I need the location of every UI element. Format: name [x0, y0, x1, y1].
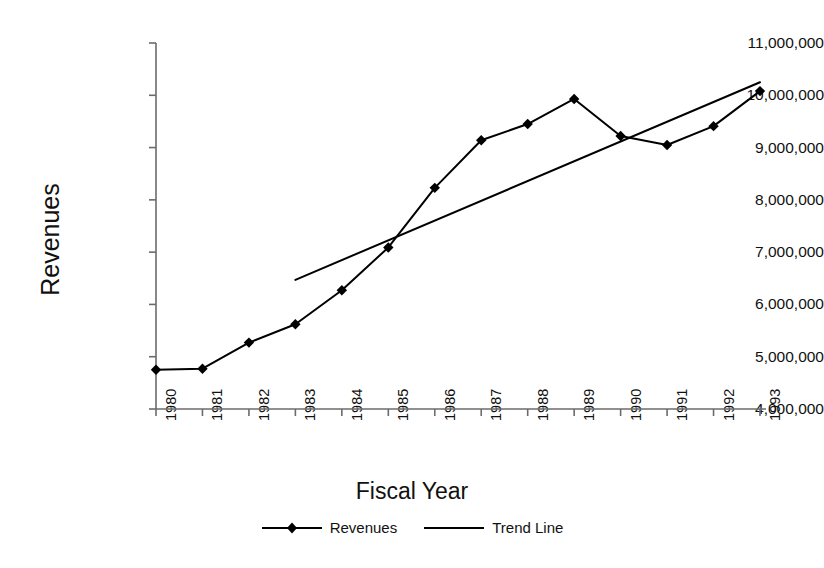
revenues-line-chart: Revenues 4,000,0005,000,0006,000,0007,00… — [0, 0, 824, 568]
series-line-revenues — [156, 91, 760, 370]
data-point-marker-revenues — [151, 365, 161, 375]
legend-item-trend-line: Trend Line — [423, 519, 563, 536]
legend-label-revenues: Revenues — [330, 519, 398, 536]
series-line-trend-line — [295, 82, 760, 280]
data-point-marker-revenues — [662, 140, 672, 150]
x-axis-title: Fiscal Year — [0, 478, 824, 505]
data-point-marker-revenues — [522, 119, 532, 129]
chart-legend: Revenues Trend Line — [0, 519, 824, 536]
legend-plain-line-icon — [423, 521, 485, 535]
data-point-marker-revenues — [244, 337, 254, 347]
legend-label-trend-line: Trend Line — [492, 519, 563, 536]
legend-item-revenues: Revenues — [261, 519, 398, 536]
data-point-marker-revenues — [197, 364, 207, 374]
legend-line-with-diamond-marker-icon — [261, 521, 323, 535]
